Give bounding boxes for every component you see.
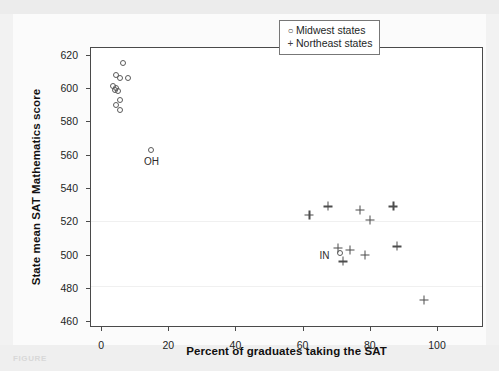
y-axis-tick-label: 560 (60, 149, 78, 161)
legend-item-label: Northeast states (296, 37, 372, 50)
data-point-northeast (389, 202, 398, 211)
y-axis-title: State mean SAT Mathematics score (27, 47, 45, 327)
legend-item-label: Midwest states (296, 24, 365, 37)
y-axis-tick: 540 (86, 188, 91, 189)
data-point-northeast (419, 295, 428, 304)
figure-caption-label: FIGURE (13, 354, 47, 363)
y-axis-tick: 500 (86, 255, 91, 256)
point-annotation-in: IN (319, 249, 329, 260)
x-axis-tick: 100 (437, 326, 438, 331)
x-axis-tick: 80 (370, 326, 371, 331)
x-axis-tick: 60 (303, 326, 304, 331)
faint-gridline (91, 221, 482, 222)
y-axis-tick: 620 (86, 55, 91, 56)
x-axis-tick-label: 40 (230, 339, 242, 351)
data-point-northeast (305, 210, 314, 219)
data-point-northeast (323, 202, 332, 211)
y-axis-tick-label: 540 (60, 182, 78, 194)
x-axis-tick: 0 (101, 326, 102, 331)
y-axis-tick: 560 (86, 155, 91, 156)
data-point-northeast (345, 245, 354, 254)
y-axis-tick-label: 520 (60, 215, 78, 227)
legend-item: ○Midwest states (285, 24, 372, 37)
plot-area: 460480500520540560580600620 020406080100… (90, 47, 483, 327)
y-axis-tick-label: 620 (60, 49, 78, 61)
data-point-northeast (360, 250, 369, 259)
faint-gridline (91, 286, 482, 287)
x-axis-tick: 40 (235, 326, 236, 331)
y-axis-tick: 600 (86, 88, 91, 89)
point-annotation-oh: OH (144, 156, 159, 167)
x-axis-tick: 20 (168, 326, 169, 331)
page-tint-top (0, 0, 499, 14)
y-axis-tick: 460 (86, 321, 91, 322)
x-axis-tick-label: 0 (98, 339, 104, 351)
y-axis-tick-label: 580 (60, 115, 78, 127)
y-axis-tick: 520 (86, 221, 91, 222)
x-axis-tick-label: 60 (297, 339, 309, 351)
y-axis-tick-label: 460 (60, 315, 78, 327)
figure-container: State mean SAT Mathematics score Percent… (0, 0, 499, 371)
data-point-midwest (148, 147, 154, 153)
data-point-northeast (365, 215, 374, 224)
x-axis-title: Percent of graduates taking the SAT (90, 345, 483, 357)
data-point-northeast (333, 244, 342, 253)
y-axis-tick-label: 600 (60, 82, 78, 94)
x-axis-tick-label: 80 (364, 339, 376, 351)
legend: ○Midwest states+Northeast states (279, 20, 380, 55)
x-axis-tick-label: 20 (162, 339, 174, 351)
data-point-northeast (338, 257, 347, 266)
data-point-northeast (392, 242, 401, 251)
x-axis-tick-label: 100 (428, 339, 446, 351)
circle-marker-icon: ○ (285, 24, 296, 37)
y-axis-tick: 480 (86, 288, 91, 289)
data-point-midwest (117, 107, 123, 113)
legend-item: +Northeast states (285, 37, 372, 50)
y-axis-tick-label: 480 (60, 282, 78, 294)
data-point-midwest (125, 75, 131, 81)
data-point-northeast (355, 205, 364, 214)
data-point-midwest (117, 75, 123, 81)
data-point-midwest (115, 88, 121, 94)
y-axis-tick: 580 (86, 121, 91, 122)
plus-marker-icon: + (285, 37, 296, 50)
plot-card: State mean SAT Mathematics score Percent… (13, 14, 486, 345)
data-point-midwest (120, 60, 126, 66)
y-axis-tick-label: 500 (60, 249, 78, 261)
